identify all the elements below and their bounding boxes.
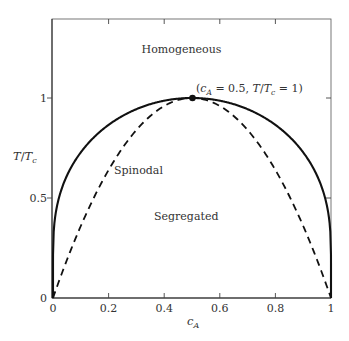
y-axis-label: T/Tc <box>13 149 37 165</box>
x-tick-label: 0.2 <box>100 302 118 315</box>
homogeneous-label: Homogeneous <box>142 43 222 56</box>
x-tick-label: 1 <box>328 302 335 315</box>
x-tick-label: 0.6 <box>211 302 229 315</box>
y-tick-label: 0 <box>40 292 47 305</box>
x-tick-label: 0.8 <box>267 302 285 315</box>
plot-frame <box>52 19 331 298</box>
y-tick-label: 1 <box>40 92 47 105</box>
phase-diagram-chart: 0 0.2 0.4 0.6 0.8 1 0 0.5 1 (cA = 0.5, T… <box>0 0 349 341</box>
y-tick-label: 0.5 <box>30 192 48 205</box>
critical-point-annotation: (cA = 0.5, T/Tc = 1) <box>196 82 303 97</box>
x-tick-label: 0.4 <box>155 302 173 315</box>
x-tick-label: 0 <box>50 302 57 315</box>
segregated-label: Segregated <box>154 210 218 223</box>
y-tick-labels: 0 0.5 1 <box>30 92 48 305</box>
axis-ticks <box>47 19 331 298</box>
critical-point-marker <box>189 95 196 102</box>
spinodal-label: Spinodal <box>114 164 163 177</box>
x-axis-label: cA <box>187 314 199 330</box>
spinodal-curve <box>53 98 331 298</box>
